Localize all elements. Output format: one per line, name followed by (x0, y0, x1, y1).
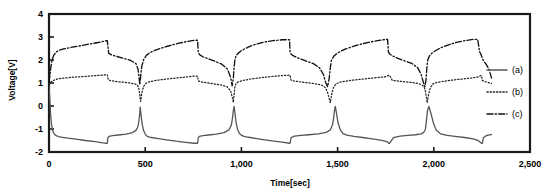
x-tick-label: 0 (46, 159, 51, 169)
y-tick-label: 0 (38, 101, 43, 111)
voltage-time-line-chart: 05001,0001,5002,0002,500 -2-101234 Time[… (0, 0, 550, 195)
legend-label-b: (b) (512, 87, 523, 97)
legend-label-a: (a) (512, 65, 523, 75)
x-tick-label: 500 (138, 159, 153, 169)
legend-label-c: (c) (512, 109, 523, 119)
y-axis-title: Voltage[V] (7, 59, 17, 101)
y-tick-label: 4 (38, 9, 43, 19)
chart-background (0, 0, 550, 195)
y-tick-label: -1 (35, 124, 43, 134)
x-tick-label: 2,500 (519, 159, 542, 169)
chart-figure: 05001,0001,5002,0002,500 -2-101234 Time[… (0, 0, 550, 195)
y-tick-label: 3 (38, 32, 43, 42)
y-tick-label: 1 (38, 78, 43, 88)
x-tick-label: 2,000 (423, 159, 446, 169)
x-axis-title: Time[sec] (270, 178, 310, 188)
y-tick-label: -2 (35, 147, 43, 157)
x-tick-label: 1,500 (326, 159, 349, 169)
x-tick-label: 1,000 (230, 159, 253, 169)
y-tick-label: 2 (38, 55, 43, 65)
